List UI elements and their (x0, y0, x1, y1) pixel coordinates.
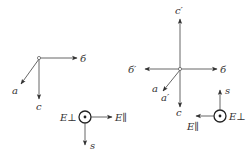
label-b-prime: б′ (128, 64, 137, 75)
label-c: c (36, 101, 42, 112)
label-c: c (176, 107, 182, 118)
out-of-plane-dot (84, 116, 87, 119)
arrow-a (21, 59, 39, 84)
arrow-a (163, 70, 180, 91)
label-e-par: E∥ (114, 112, 127, 123)
origin-point (178, 67, 181, 70)
label-a: a (12, 85, 18, 96)
left-axes: б a c (12, 53, 87, 112)
label-e-par: E∥ (186, 121, 199, 132)
diagram-canvas: б a c c′ б′ б a a′ c E⊥ E∥ s s E⊥ E∥ (0, 0, 246, 166)
label-c-prime: c′ (175, 5, 184, 16)
right-axes: c′ б′ б a a′ c (128, 5, 227, 118)
label-a-prime: a′ (161, 92, 170, 103)
label-a: a (152, 83, 158, 94)
left-field: E⊥ E∥ s (59, 111, 127, 151)
label-b: б (80, 53, 87, 64)
out-of-plane-dot (219, 115, 222, 118)
label-b: б (220, 64, 227, 75)
label-e-perp: E⊥ (59, 112, 77, 123)
right-field: s E⊥ E∥ (186, 85, 246, 132)
label-s: s (90, 140, 95, 151)
label-s: s (225, 85, 230, 96)
label-e-perp: E⊥ (228, 111, 246, 122)
origin-point (37, 56, 40, 59)
